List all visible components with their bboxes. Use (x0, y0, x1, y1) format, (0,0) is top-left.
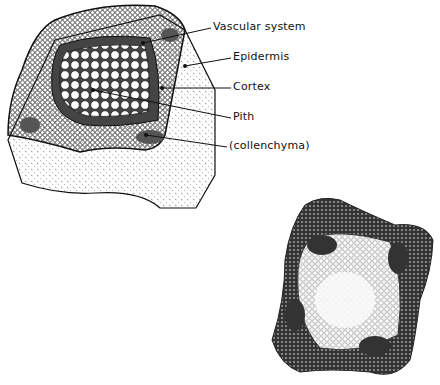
label-epidermis: Epidermis (233, 50, 289, 63)
stem-micrograph (272, 198, 433, 374)
label-cortex: Cortex (233, 80, 271, 93)
label-vascular-system: Vascular system (213, 20, 306, 33)
stem-diagram-canvas (0, 0, 440, 385)
label-pith: Pith (233, 110, 255, 123)
stem-drawing (8, 5, 215, 208)
label-collenchyma: (collenchyma) (229, 139, 310, 152)
